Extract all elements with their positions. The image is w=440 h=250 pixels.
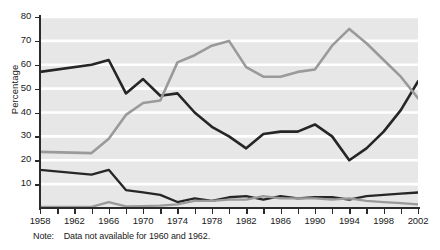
x-tick-mark-1984 bbox=[263, 208, 264, 214]
y-tick-label: 40 bbox=[21, 106, 31, 117]
y-tick-label: 50 bbox=[21, 82, 31, 93]
y-tick-mark bbox=[35, 136, 40, 137]
x-tick-mark-1978 bbox=[212, 208, 213, 214]
x-tick-mark-1970 bbox=[143, 208, 144, 214]
y-tick-label: 10 bbox=[21, 177, 31, 188]
x-tick-mark-1996 bbox=[366, 208, 367, 214]
y-tick-mark bbox=[35, 17, 40, 18]
y-tick-label: 30 bbox=[21, 129, 31, 140]
x-tick-mark-1998 bbox=[384, 208, 385, 214]
x-tick-mark-1992 bbox=[332, 208, 333, 214]
y-axis-title: Percentage bbox=[9, 30, 20, 150]
y-tick-label: 60 bbox=[21, 58, 31, 69]
x-tick-mark-1972 bbox=[160, 208, 161, 214]
x-tick-label-1994: 1994 bbox=[339, 215, 360, 226]
x-tick-mark-1988 bbox=[298, 208, 299, 214]
x-tick-label-1990: 1990 bbox=[305, 215, 326, 226]
x-tick-label-1966: 1966 bbox=[98, 215, 119, 226]
x-tick-mark-1986 bbox=[281, 208, 282, 214]
x-tick-label-2002: 2002 bbox=[408, 215, 429, 226]
y-tick-mark bbox=[35, 113, 40, 114]
y-tick-label: 20 bbox=[21, 153, 31, 164]
x-tick-mark-1980 bbox=[229, 208, 230, 214]
line-series-dark-upper bbox=[40, 60, 418, 160]
x-tick-mark-1968 bbox=[126, 208, 127, 214]
y-tick-mark bbox=[35, 41, 40, 42]
x-tick-mark-1962 bbox=[74, 208, 75, 214]
x-tick-mark-1990 bbox=[315, 208, 316, 214]
x-tick-mark-1982 bbox=[246, 208, 247, 214]
y-tick-mark bbox=[35, 89, 40, 90]
x-tick-label-1998: 1998 bbox=[373, 215, 394, 226]
x-tick-mark-1994 bbox=[349, 208, 350, 214]
x-tick-mark-1964 bbox=[92, 208, 93, 214]
x-tick-mark-2000 bbox=[401, 208, 402, 214]
line-series-gray-upper bbox=[40, 29, 418, 153]
y-tick-label: 70 bbox=[21, 34, 31, 45]
chart-figure: 1020304050607080 19581962196619701974197… bbox=[0, 0, 440, 250]
chart-note-text: Data not available for 1960 and 1962. bbox=[64, 231, 210, 241]
x-tick-label-1974: 1974 bbox=[167, 215, 188, 226]
series-lines bbox=[40, 17, 418, 208]
y-tick-mark bbox=[35, 65, 40, 66]
plot-area bbox=[40, 17, 418, 208]
x-tick-mark-1958 bbox=[40, 208, 41, 214]
x-tick-label-1962: 1962 bbox=[64, 215, 85, 226]
x-tick-mark-1974 bbox=[177, 208, 178, 214]
y-tick-mark bbox=[35, 160, 40, 161]
x-tick-label-1958: 1958 bbox=[30, 215, 51, 226]
x-tick-label-1986: 1986 bbox=[270, 215, 291, 226]
line-series-dark-lower bbox=[40, 170, 418, 202]
x-tick-label-1970: 1970 bbox=[133, 215, 154, 226]
y-tick-label: 80 bbox=[21, 10, 31, 21]
chart-note-label: Note: bbox=[33, 231, 54, 241]
x-tick-label-1982: 1982 bbox=[236, 215, 257, 226]
x-tick-mark-2002 bbox=[418, 208, 419, 214]
y-tick-mark bbox=[35, 184, 40, 185]
x-tick-mark-1966 bbox=[109, 208, 110, 214]
x-tick-mark-1960 bbox=[57, 208, 58, 214]
x-tick-mark-1976 bbox=[195, 208, 196, 214]
chart-note: Note: Data not available for 1960 and 19… bbox=[33, 231, 210, 241]
x-tick-label-1978: 1978 bbox=[201, 215, 222, 226]
